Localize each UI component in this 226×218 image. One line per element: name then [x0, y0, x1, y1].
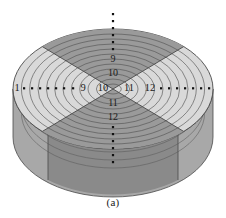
dot	[112, 126, 114, 128]
dot	[208, 87, 210, 89]
dot	[112, 140, 114, 142]
dot	[112, 48, 114, 50]
label-vertical-10: 10	[108, 67, 118, 78]
label-vertical-9: 9	[111, 53, 116, 64]
dot	[112, 34, 114, 36]
dot	[112, 20, 114, 22]
dot	[112, 154, 114, 156]
figure-caption: (a)	[0, 196, 226, 208]
dot	[112, 133, 114, 135]
dot	[112, 41, 114, 43]
label-center-9: 9	[80, 82, 85, 93]
label-center-10: 10	[98, 82, 109, 93]
figure-container: 1 9 10 11 12 9 10 11 12 (a)	[0, 0, 226, 218]
dot	[112, 147, 114, 149]
dot	[160, 87, 162, 89]
dot	[192, 87, 194, 89]
dot	[55, 87, 57, 89]
label-vertical-11: 11	[108, 97, 118, 108]
dot	[23, 87, 25, 89]
cylinder-diagram: 1 9 10 11 12 9 10 11 12	[0, 0, 226, 218]
dot	[39, 87, 41, 89]
dot	[63, 87, 65, 89]
label-center-11: 11	[124, 82, 134, 93]
dot	[112, 161, 114, 163]
dot	[47, 87, 49, 89]
label-left-end: 1	[14, 82, 19, 93]
dot	[31, 87, 33, 89]
dot	[184, 87, 186, 89]
dot	[200, 87, 202, 89]
dot	[112, 27, 114, 29]
dot	[72, 87, 74, 89]
label-vertical-12: 12	[108, 111, 118, 122]
label-center-12: 12	[145, 82, 156, 93]
dot	[176, 87, 178, 89]
dot	[112, 13, 114, 15]
dot	[168, 87, 170, 89]
